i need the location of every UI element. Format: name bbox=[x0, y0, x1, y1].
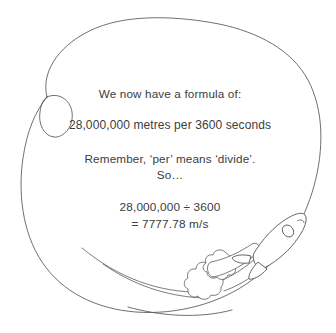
slide-text-block: We now have a formula of: 28,000,000 met… bbox=[38, 88, 302, 231]
spacer-2 bbox=[38, 131, 302, 153]
exhaust-smoke-icon bbox=[184, 250, 236, 299]
spacer-1 bbox=[38, 100, 302, 119]
result-line: = 7777.78 m/s bbox=[38, 219, 302, 231]
intro-line: We now have a formula of: bbox=[38, 88, 302, 100]
formula-line: 28,000,000 metres per 3600 seconds bbox=[38, 119, 302, 131]
so-line: So… bbox=[38, 169, 302, 181]
rocket-trail-icon bbox=[82, 246, 281, 298]
slide-canvas: We now have a formula of: 28,000,000 met… bbox=[0, 0, 336, 333]
remember-line: Remember, ‘per’ means ‘divide’. bbox=[38, 153, 302, 165]
spacer-3 bbox=[38, 181, 302, 202]
calculation-line: 28,000,000 ÷ 3600 bbox=[38, 202, 302, 214]
exhaust-body-icon bbox=[207, 243, 259, 277]
